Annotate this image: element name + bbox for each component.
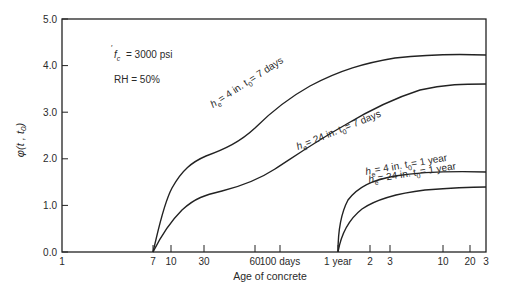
y-axis: 0.01.02.03.04.05.0 <box>43 14 68 258</box>
curve-he24-t1y <box>338 187 486 252</box>
x-tick-label: 10 <box>165 256 177 267</box>
y-tick-label: 0.0 <box>43 247 57 258</box>
x-tick-label: 2 <box>367 256 373 267</box>
y-axis-label: φ(t , t0) <box>14 123 28 158</box>
y-tick-label: 1.0 <box>43 200 57 211</box>
x-tick-label: 3 <box>387 256 393 267</box>
curve-he4-t1y <box>338 172 486 252</box>
svg-text:′: ′ <box>111 43 113 52</box>
y-tick-label: 5.0 <box>43 14 57 25</box>
x-tick-label: 100 days <box>260 256 301 267</box>
y-tick-label: 2.0 <box>43 153 57 164</box>
svg-text:= 3000 psi: = 3000 psi <box>126 49 172 60</box>
creep-coefficient-chart: 0.01.02.03.04.05.0 φ(t , t0) 17103060100… <box>0 0 510 291</box>
x-tick-label: 3 <box>483 256 489 267</box>
x-tick-label: 10 <box>437 256 449 267</box>
curve-label-he4-t7d: he= 4 in. t0= 7 days <box>208 54 286 111</box>
x-tick-label: 1 <box>59 256 65 267</box>
x-tick-label: 1 year <box>324 256 352 267</box>
svg-text:he= 4 in. t0= 7 days: he= 4 in. t0= 7 days <box>208 54 286 111</box>
x-tick-label: 30 <box>198 256 210 267</box>
svg-text:φ(t , t0): φ(t , t0) <box>14 123 28 158</box>
x-tick-label: 20 <box>464 256 476 267</box>
y-tick-label: 4.0 <box>43 60 57 71</box>
curve-label-he24-t7d: he= 24 in. t0= 7 days <box>295 108 383 154</box>
x-axis: 17103060100 days1 year2310203 <box>59 245 489 267</box>
annotation-fc: fc ′ = 3000 psi <box>111 43 172 62</box>
svg-text:he= 24 in. t0= 7 days: he= 24 in. t0= 7 days <box>295 108 383 154</box>
svg-text:fc: fc <box>114 49 121 62</box>
x-axis-label: Age of concrete <box>233 270 307 282</box>
y-tick-label: 3.0 <box>43 107 57 118</box>
x-tick-label: 7 <box>150 256 156 267</box>
annotation-rh: RH = 50% <box>114 74 160 85</box>
